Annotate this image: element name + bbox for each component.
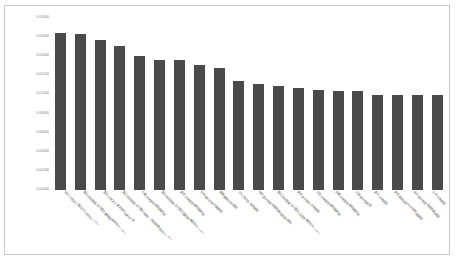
bar: [412, 95, 423, 190]
bar: [253, 84, 264, 190]
y-axis-tick-label: 0.00600: [36, 131, 49, 134]
bar: [114, 46, 125, 190]
bar: [95, 40, 106, 190]
x-axis-category-label: 九州大学病院: [431, 191, 446, 206]
y-axis-tick-label: 0.01000: [36, 93, 49, 96]
bar: [154, 60, 165, 190]
bar: [273, 86, 284, 190]
y-axis-tick-label: 0.01400: [36, 55, 49, 58]
x-axis-category-label: がん研究会 有明病院: [237, 191, 259, 213]
x-axis-category-label: 東北大学病院: [373, 191, 388, 206]
x-axis-category-label: 北海道大学病院: [354, 191, 371, 208]
x-axis-category-label: 順天堂大学医学部附属順天堂医院: [257, 191, 291, 225]
plot-area: 0.018000.016000.014000.012000.010000.008…: [53, 18, 445, 190]
bar: [352, 91, 363, 190]
x-axis-category-labels: 独立行政法人国立がん研究センター国立研究開発法人国立循環器病研究センター国立大学…: [53, 192, 445, 254]
bar: [55, 33, 66, 190]
y-axis-tick-label: 0.00200: [36, 169, 49, 172]
chart-frame: 0.018000.016000.014000.012000.010000.008…: [4, 5, 450, 255]
y-axis-tick-label: 0.01600: [36, 35, 49, 38]
y-axis-tick-label: 0.01200: [36, 74, 49, 77]
bar: [194, 65, 205, 190]
y-axis-tick-label: 0.00400: [36, 150, 49, 153]
bar: [313, 90, 324, 190]
bar: [293, 88, 304, 190]
bar-series: [53, 18, 445, 190]
y-axis-tick-label: 0.00000: [36, 188, 49, 191]
bar: [432, 95, 443, 190]
bar: [75, 34, 86, 190]
bar: [333, 91, 344, 190]
bar: [174, 60, 185, 190]
bar: [134, 56, 145, 190]
bar: [392, 95, 403, 190]
x-axis-category-label: 独立行政法人国立がん研究センター: [63, 191, 100, 228]
x-axis-category-label: 慶應義塾大学病院: [218, 191, 237, 210]
bar: [214, 68, 225, 190]
bar: [233, 81, 244, 190]
y-axis-tick-label: 0.01800: [36, 16, 49, 19]
y-axis-tick-label: 0.00800: [36, 112, 49, 115]
bar: [372, 95, 383, 190]
